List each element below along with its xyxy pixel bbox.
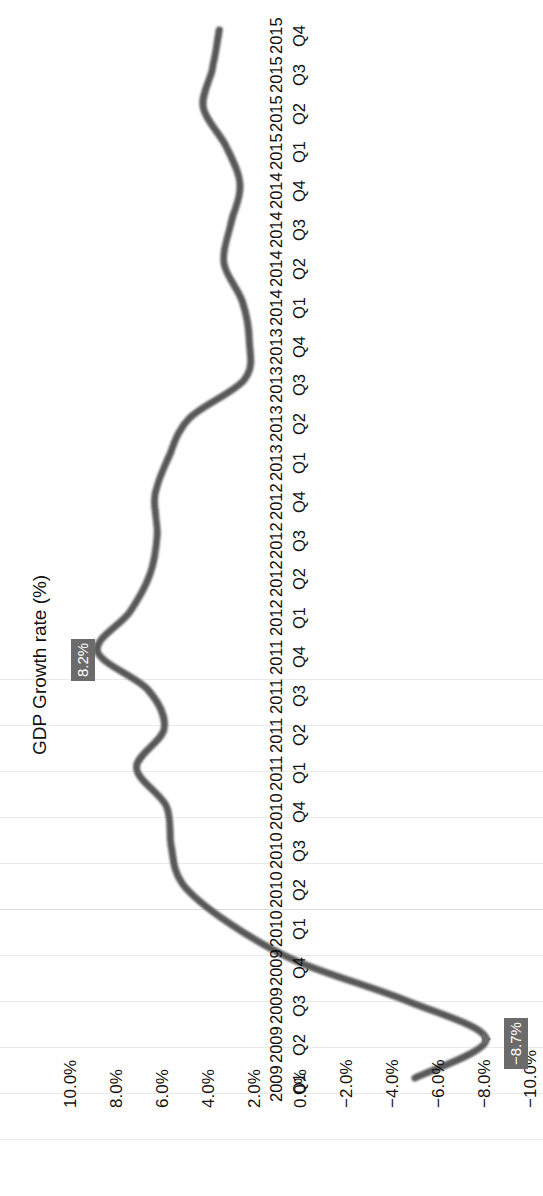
data-label-neg8-7pct: −8.7% xyxy=(504,1018,528,1069)
chart-figure: 2009Q12009Q22009Q32009Q42010Q12010Q22010… xyxy=(0,0,543,1196)
chart-plot-surface xyxy=(0,0,543,1196)
plot-area xyxy=(0,0,543,1196)
series-line-gdp-growth-rate xyxy=(0,0,543,1196)
data-label-8-2pct: 8.2% xyxy=(71,639,95,681)
y-axis-title: GDP Growth rate (%) xyxy=(30,575,49,755)
data-point-marker-icon xyxy=(482,1032,491,1046)
